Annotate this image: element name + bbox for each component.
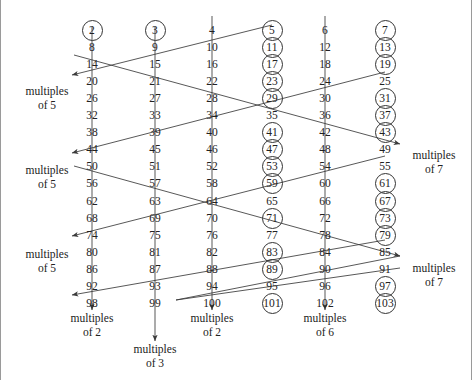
lattice-number: 27 xyxy=(142,93,168,105)
lattice-number: 5 xyxy=(259,25,285,37)
lattice-number: 60 xyxy=(312,178,338,190)
multiples-of-5-line-3 xyxy=(72,156,385,236)
lattice-number: 15 xyxy=(142,59,168,71)
lattice-number: 33 xyxy=(142,110,168,122)
lattice-number: 7 xyxy=(372,25,398,37)
lattice-number: 29 xyxy=(259,93,285,105)
multiples-of-3-label: multiplesof 3 xyxy=(118,343,192,370)
multiples-of-6-label-line2: of 6 xyxy=(288,326,362,340)
lattice-number: 2 xyxy=(79,25,105,37)
lattice-number: 44 xyxy=(79,144,105,156)
lattice-number: 75 xyxy=(142,230,168,242)
lattice-number: 46 xyxy=(199,144,225,156)
lattice-number: 21 xyxy=(142,76,168,88)
lattice-number: 4 xyxy=(199,25,225,37)
multiples-of-2-label-b-line2: of 2 xyxy=(175,326,249,340)
lattice-number: 84 xyxy=(312,247,338,259)
multiples-of-7-label-a-line2: of 7 xyxy=(396,163,472,177)
lattice-number: 85 xyxy=(372,247,398,259)
lattice-number: 35 xyxy=(259,110,285,122)
lattice-number: 81 xyxy=(142,247,168,259)
lattice-number: 3 xyxy=(142,25,168,37)
lattice-number: 9 xyxy=(142,42,168,54)
lattice-number: 65 xyxy=(259,196,285,208)
lattice-number: 92 xyxy=(79,281,105,293)
lattice-number: 36 xyxy=(312,110,338,122)
lattice-number: 59 xyxy=(259,178,285,190)
lattice-number: 45 xyxy=(142,144,168,156)
lattice-number: 70 xyxy=(199,213,225,225)
lattice-number: 13 xyxy=(372,42,398,54)
lattice-number: 68 xyxy=(79,213,105,225)
multiples-of-2-label-a-line1: multiples xyxy=(55,312,129,326)
lattice-number: 69 xyxy=(142,213,168,225)
lattice-number: 57 xyxy=(142,178,168,190)
multiples-of-5-line-2 xyxy=(72,72,385,153)
multiples-of-3-label-line1: multiples xyxy=(118,343,192,357)
lattice-number: 54 xyxy=(312,161,338,173)
multiples-of-5-label-c-line1: multiples xyxy=(8,248,86,262)
lattice-number: 63 xyxy=(142,196,168,208)
lattice-number: 25 xyxy=(372,76,398,88)
lattice-number: 77 xyxy=(259,230,285,242)
lattice-number: 94 xyxy=(199,281,225,293)
lattice-number: 39 xyxy=(142,127,168,139)
lattice-number: 10 xyxy=(199,42,225,54)
lattice-number: 93 xyxy=(142,281,168,293)
lattice-number: 22 xyxy=(199,76,225,88)
lattice-number: 52 xyxy=(199,161,225,173)
lattice-number: 100 xyxy=(199,298,225,310)
multiples-of-5-label-b-line2: of 5 xyxy=(8,178,86,192)
lattice-number: 30 xyxy=(312,93,338,105)
multiples-of-6-label: multiplesof 6 xyxy=(288,312,362,339)
multiples-of-3-label-line2: of 3 xyxy=(118,357,192,371)
lattice-number: 79 xyxy=(372,230,398,242)
lattice-number: 64 xyxy=(199,196,225,208)
lattice-number: 83 xyxy=(259,247,285,259)
lattice-number: 73 xyxy=(372,213,398,225)
multiples-of-7-label-a: multiplesof 7 xyxy=(396,149,472,176)
multiples-of-2-label-a-line2: of 2 xyxy=(55,326,129,340)
multiples-of-5-label-b-line1: multiples xyxy=(8,164,86,178)
multiples-of-5-label-a-line2: of 5 xyxy=(8,99,86,113)
lattice-number: 8 xyxy=(79,42,105,54)
lattice-number: 96 xyxy=(312,281,338,293)
lattice-number: 78 xyxy=(312,230,338,242)
lattice-number: 31 xyxy=(372,93,398,105)
lattice-number: 98 xyxy=(79,298,105,310)
multiples-of-2-label-b-line1: multiples xyxy=(175,312,249,326)
multiples-of-7-line-2 xyxy=(74,166,400,256)
multiples-of-5-label-c: multiplesof 5 xyxy=(8,248,86,275)
lattice-number: 51 xyxy=(142,161,168,173)
lattice-number: 47 xyxy=(259,144,285,156)
lattice-number: 82 xyxy=(199,247,225,259)
multiples-of-7-label-a-line1: multiples xyxy=(396,149,472,163)
lattice-number: 55 xyxy=(372,161,398,173)
lattice-number: 66 xyxy=(312,196,338,208)
lattice-number: 43 xyxy=(372,127,398,139)
lattice-number: 6 xyxy=(312,25,338,37)
multiples-of-5-label-c-line2: of 5 xyxy=(8,262,86,276)
lattice-number: 42 xyxy=(312,127,338,139)
lattice-number: 97 xyxy=(372,281,398,293)
multiples-of-2-label-a: multiplesof 2 xyxy=(55,312,129,339)
lattice-number: 71 xyxy=(259,213,285,225)
lattice-number: 90 xyxy=(312,264,338,276)
multiples-of-7-label-b-line2: of 7 xyxy=(396,276,472,290)
lattice-number: 12 xyxy=(312,42,338,54)
lattice-number: 74 xyxy=(79,230,105,242)
multiples-of-5-label-b: multiplesof 5 xyxy=(8,164,86,191)
lattice-number: 24 xyxy=(312,76,338,88)
lattice-number: 58 xyxy=(199,178,225,190)
multiples-of-7-line-1 xyxy=(74,55,400,144)
lattice-number: 67 xyxy=(372,196,398,208)
lattice-number: 18 xyxy=(312,59,338,71)
lattice-number: 89 xyxy=(259,264,285,276)
lattice-number: 88 xyxy=(199,264,225,276)
multiples-of-5-line-4 xyxy=(72,240,385,295)
lattice-number: 101 xyxy=(259,298,285,310)
lattice-number: 87 xyxy=(142,264,168,276)
lattice-number: 62 xyxy=(79,196,105,208)
lattice-number: 17 xyxy=(259,59,285,71)
multiples-of-2-label-b: multiplesof 2 xyxy=(175,312,249,339)
